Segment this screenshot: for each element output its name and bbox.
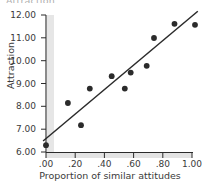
data-point xyxy=(43,142,49,148)
data-point xyxy=(172,21,178,27)
y-tick-label: 12.00 xyxy=(2,10,36,20)
x-tick-label: .80 xyxy=(148,159,178,169)
scatter-plot-figure: Attraction xyxy=(0,0,208,185)
x-tick-label: 1.00 xyxy=(177,159,207,169)
data-point xyxy=(87,86,93,92)
x-tick-label: .00 xyxy=(31,159,61,169)
plot-canvas xyxy=(0,0,208,185)
data-point xyxy=(144,63,150,69)
y-tick-label: 6.00 xyxy=(2,147,36,157)
y-tick-label: 7.00 xyxy=(2,124,36,134)
data-point xyxy=(128,70,134,76)
data-point xyxy=(192,22,198,28)
y-axis-title: Attraction xyxy=(5,30,16,102)
x-axis-title: Proportion of similar attitudes xyxy=(20,170,200,181)
data-point xyxy=(78,122,84,128)
x-tick-label: .60 xyxy=(119,159,149,169)
data-point xyxy=(122,86,128,92)
y-tick-label: 8.00 xyxy=(2,101,36,111)
data-point-group xyxy=(43,21,198,148)
regression-line xyxy=(43,11,198,141)
data-point xyxy=(65,100,71,106)
data-point xyxy=(151,35,157,41)
x-tick-label: .40 xyxy=(89,159,119,169)
y-axis-shade-band xyxy=(47,15,54,152)
data-point xyxy=(109,73,115,79)
x-tick-label: .20 xyxy=(60,159,90,169)
y-axis-ticks xyxy=(41,15,46,152)
